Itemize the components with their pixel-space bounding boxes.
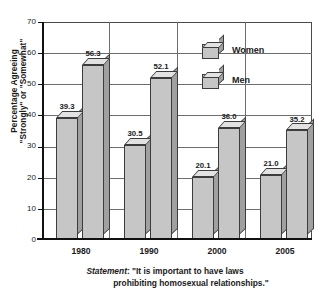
y-tick-label-30: 30 — [14, 141, 36, 150]
bar-1980-women — [56, 118, 78, 240]
bar-front-face — [56, 118, 78, 240]
bar-value-2005-women: 21.0 — [256, 159, 286, 168]
cube-swatch-icon — [202, 42, 219, 59]
bar-value-2000-women: 20.1 — [188, 161, 218, 170]
bar-2005-women — [260, 175, 282, 240]
bar-front-face — [150, 78, 172, 240]
bar-front-face — [260, 175, 282, 240]
x-axis-line — [37, 238, 312, 240]
bar-2000-men — [218, 128, 240, 240]
bar-value-2000-men: 36.0 — [214, 112, 244, 121]
bar-value-1990-men: 52.1 — [146, 62, 176, 71]
bar-value-2005-men: 35.2 — [282, 115, 312, 124]
bar-front-face — [286, 130, 308, 240]
y-axis-title-line-1: Percentage Agreeing — [10, 49, 19, 133]
bar-value-1990-women: 30.5 — [120, 129, 150, 138]
chart-legend: Women Men — [196, 36, 306, 96]
bar-1990-men — [150, 78, 172, 240]
bar-front-face — [82, 65, 104, 240]
x-tick-label-1990: 1990 — [126, 246, 172, 256]
y-axis-line — [42, 22, 44, 240]
bar-value-1980-men: 56.3 — [78, 49, 108, 58]
x-tick-label-1980: 1980 — [58, 246, 104, 256]
caption-statement-label: Statement — [86, 266, 127, 276]
y-tick-label-40: 40 — [14, 110, 36, 119]
cube-swatch-icon — [202, 72, 219, 89]
chart-caption: Statement: "It is important to have laws… — [0, 265, 324, 289]
y-tick-label-20: 20 — [14, 173, 36, 182]
x-tick-label-2005: 2005 — [262, 246, 308, 256]
legend-item-men: Men — [196, 66, 306, 96]
caption-separator: : — [127, 266, 130, 276]
x-tick-label-2000: 2000 — [194, 246, 240, 256]
bar-2005-men — [286, 130, 308, 240]
bar-front-face — [218, 128, 240, 240]
legend-label-men: Men — [232, 75, 250, 85]
bar-1980-men — [82, 65, 104, 240]
y-tick-label-70: 70 — [14, 17, 36, 26]
y-tick-label-50: 50 — [14, 79, 36, 88]
bar-side-face — [172, 67, 178, 234]
bar-front-face — [192, 177, 214, 240]
caption-line-2: prohibiting homosexual relationships." — [0, 277, 324, 289]
y-tick-label-10: 10 — [14, 204, 36, 213]
bar-2000-women — [192, 177, 214, 240]
legend-item-women: Women — [196, 36, 306, 66]
bar-side-face — [308, 119, 314, 234]
bar-side-face — [240, 117, 246, 234]
caption-text-line-1: "It is important to have laws — [132, 266, 243, 276]
legend-label-women: Women — [232, 45, 264, 55]
y-tick-label-60: 60 — [14, 48, 36, 57]
caption-line-1: Statement: "It is important to have laws — [0, 265, 324, 277]
bar-chart-figure: Percentage Agreeing "Strongly" or "Somew… — [0, 0, 324, 297]
bar-1990-women — [124, 145, 146, 240]
bar-front-face — [124, 145, 146, 240]
y-tick-label-0: 0 — [14, 235, 36, 244]
bar-value-1980-women: 39.3 — [52, 102, 82, 111]
y-axis-title: Percentage Agreeing "Strongly" or "Somew… — [6, 6, 32, 176]
bar-side-face — [104, 54, 110, 234]
